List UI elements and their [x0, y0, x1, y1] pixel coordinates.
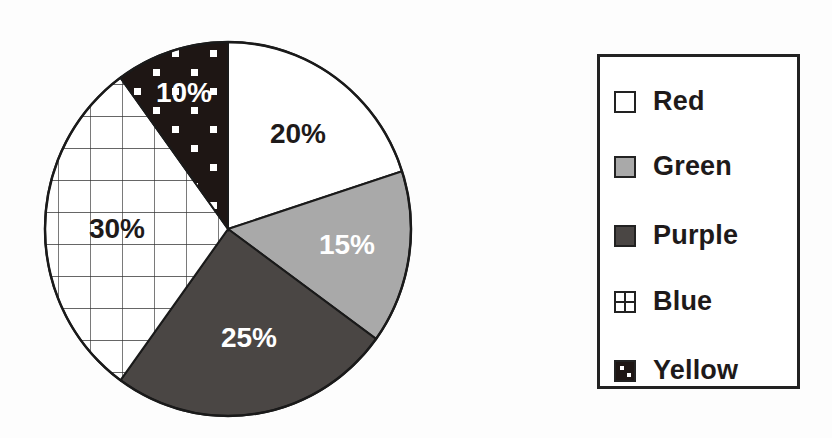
- legend-item-blue: Blue: [614, 286, 712, 317]
- legend-label-yellow: Yellow: [653, 355, 738, 386]
- label-red: 20%: [270, 118, 326, 149]
- legend-item-yellow: Yellow: [614, 355, 738, 386]
- legend-item-green: Green: [614, 151, 732, 182]
- swatch-purple: [614, 225, 636, 247]
- label-green: 15%: [319, 229, 375, 260]
- label-yellow: 10%: [156, 77, 212, 108]
- legend-label-red: Red: [653, 86, 705, 117]
- swatch-yellow: [614, 360, 636, 382]
- legend-label-green: Green: [653, 151, 732, 182]
- legend-label-purple: Purple: [653, 220, 738, 251]
- swatch-red: [614, 91, 636, 113]
- swatch-green: [614, 156, 636, 178]
- legend-item-red: Red: [614, 86, 705, 117]
- legend-label-blue: Blue: [653, 286, 712, 317]
- label-purple: 25%: [221, 322, 277, 353]
- label-blue: 30%: [89, 213, 145, 244]
- legend: Red Green Purple Blue Yellow: [597, 54, 800, 389]
- legend-item-purple: Purple: [614, 220, 738, 251]
- swatch-blue: [614, 291, 636, 313]
